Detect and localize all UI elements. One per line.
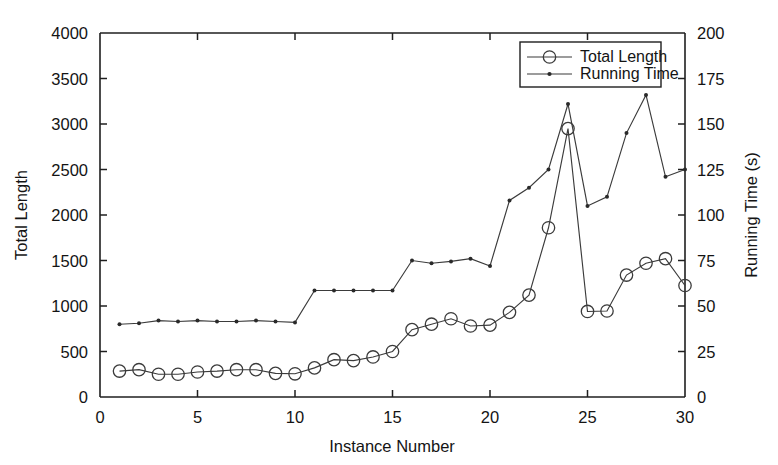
series-path: [120, 95, 686, 324]
data-point: [137, 321, 141, 325]
data-point: [196, 319, 200, 323]
data-point: [352, 289, 356, 293]
data-point: [566, 102, 570, 106]
data-point: [547, 168, 551, 172]
data-point: [157, 319, 161, 323]
data-point: [683, 168, 687, 172]
data-point: [469, 257, 473, 261]
x-tick-label: 30: [676, 408, 694, 426]
y-tick-label-right: 175: [697, 70, 725, 88]
x-tick-label: 15: [383, 408, 401, 426]
data-point: [410, 259, 414, 263]
y-tick-label-left: 3500: [51, 70, 88, 88]
y-tick-label-left: 2000: [51, 206, 88, 224]
x-axis-top-ticks: [198, 33, 588, 40]
y-tick-label-left: 4000: [51, 24, 88, 42]
y-tick-label-left: 0: [79, 388, 88, 406]
data-point: [449, 259, 453, 263]
y-tick-label-right: 100: [697, 206, 725, 224]
data-point: [508, 198, 512, 202]
y-tick-label-right: 50: [697, 297, 715, 315]
data-series-layer: [113, 93, 691, 381]
x-tick-label: 0: [95, 408, 104, 426]
data-point: [313, 289, 317, 293]
y-tick-label-right: 200: [697, 24, 725, 42]
data-point: [235, 319, 239, 323]
x-tick-label: 20: [481, 408, 499, 426]
data-point: [254, 319, 258, 323]
data-point: [430, 261, 434, 265]
x-axis-title: Instance Number: [329, 437, 455, 455]
data-point: [586, 204, 590, 208]
y-tick-label-left: 1000: [51, 297, 88, 315]
legend-label-total-length: Total Length: [580, 48, 667, 65]
data-point: [176, 319, 180, 323]
y-axis-right-title: Running Time (s): [742, 152, 760, 278]
data-point: [118, 322, 122, 326]
y-tick-label-right: 0: [697, 388, 706, 406]
y-tick-label-right: 150: [697, 115, 725, 133]
y-tick-label-left: 3000: [51, 115, 88, 133]
data-point: [644, 93, 648, 97]
data-point: [391, 289, 395, 293]
y-axis-left-title: Total Length: [12, 170, 30, 260]
y-tick-label-right: 75: [697, 252, 715, 270]
chart-legend[interactable]: Total Length Running Time: [520, 42, 679, 87]
data-point: [605, 195, 609, 199]
y-tick-label-right: 125: [697, 161, 725, 179]
chart-figure: 05001000150020002500300035004000 0255075…: [0, 0, 778, 465]
x-axis-ticks: [198, 390, 588, 397]
series-running-time: [118, 93, 688, 326]
series-path: [120, 129, 686, 375]
legend-label-running-time: Running Time: [580, 65, 679, 82]
data-point: [332, 289, 336, 293]
data-point: [527, 186, 531, 190]
data-point: [215, 319, 219, 323]
y-axis-left-labels: 05001000150020002500300035004000: [51, 24, 88, 406]
data-point: [625, 131, 629, 135]
y-tick-label-left: 1500: [51, 252, 88, 270]
y-tick-label-left: 2500: [51, 161, 88, 179]
y-axis-right-ticks: [678, 79, 685, 352]
x-tick-label: 25: [578, 408, 596, 426]
y-tick-label-right: 25: [697, 343, 715, 361]
y-axis-right-labels: 0255075100125150175200: [697, 24, 725, 406]
x-tick-label: 10: [286, 408, 304, 426]
y-axis-left-ticks: [100, 79, 107, 352]
data-point: [293, 320, 297, 324]
chart-canvas: 05001000150020002500300035004000 0255075…: [0, 0, 778, 465]
series-total-length: [113, 122, 691, 380]
data-point: [488, 264, 492, 268]
x-axis-labels: 051015202530: [95, 408, 694, 426]
data-point: [274, 319, 278, 323]
data-point: [371, 289, 375, 293]
legend-marker-dot: [547, 72, 551, 76]
x-tick-label: 5: [193, 408, 202, 426]
y-tick-label-left: 500: [60, 343, 88, 361]
data-point: [664, 175, 668, 179]
